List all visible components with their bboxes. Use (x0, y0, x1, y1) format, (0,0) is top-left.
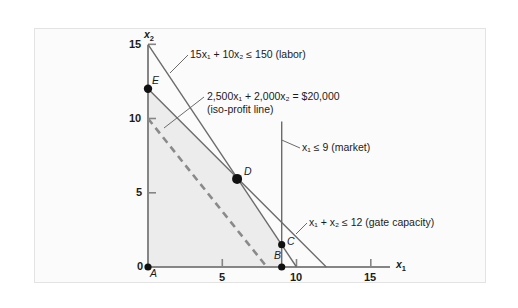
y-tick-label-10: 10 (129, 112, 141, 124)
vertex-label-D: D (244, 165, 252, 177)
x-tick-label-15: 15 (364, 271, 376, 283)
y-tick-label-15: 15 (129, 38, 141, 50)
annotation-market: x₁ ≤ 9 (market) (302, 141, 370, 154)
vertex-label-B: B (274, 249, 281, 261)
annotation-isoprofit-line1: 2,500x₁ + 2,000x₂ = $20,000 (207, 90, 340, 103)
x-axis-label: x1 (396, 258, 406, 273)
leader-gate (296, 223, 307, 234)
x-tick-label-5: 5 (219, 271, 225, 283)
annotation-gate-capacity: x₁ + x₂ ≤ 12 (gate capacity) (309, 216, 434, 229)
vertex-point-C (278, 241, 285, 248)
x-axis-label-sub: 1 (402, 264, 406, 273)
lp-graph-svg (0, 0, 518, 308)
annotation-isoprofit-line2: (iso-profit line) (207, 103, 274, 116)
y-tick-label-5: 5 (136, 186, 142, 198)
vertex-label-E: E (152, 74, 159, 86)
figure-root: 0 5 10 15 5 10 15 x2 x1 A B C D E 15x₁ +… (0, 0, 518, 308)
feasible-region (148, 89, 282, 267)
vertex-label-C: C (287, 235, 295, 247)
x-tick-label-10: 10 (290, 271, 302, 283)
y-tick-label-0: 0 (137, 260, 143, 272)
annotation-labor: 15x₁ + 10x₂ ≤ 150 (labor) (190, 48, 306, 61)
y-axis-label: x2 (144, 28, 154, 43)
leader-market (282, 140, 300, 148)
leader-labor (170, 55, 188, 73)
vertex-point-B (278, 263, 285, 270)
y-axis-label-sub: 2 (150, 34, 154, 43)
vertex-label-A: A (150, 267, 157, 279)
vertex-point-E (144, 85, 152, 93)
vertex-point-D (232, 174, 242, 184)
